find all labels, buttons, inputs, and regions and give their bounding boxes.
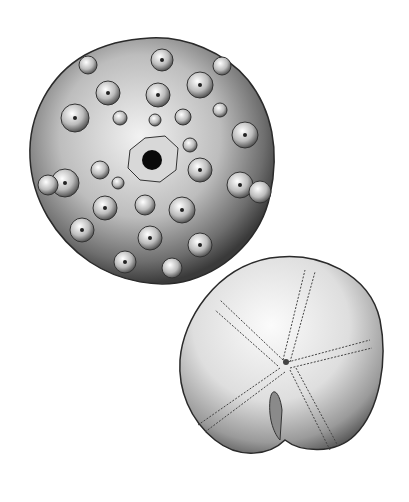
illustration-canvas — [0, 0, 409, 502]
regular-echinoid — [30, 38, 274, 284]
echinoid-illustration — [0, 0, 409, 502]
periproct — [142, 150, 162, 170]
apex — [283, 359, 289, 365]
heart-urchin — [180, 257, 383, 454]
